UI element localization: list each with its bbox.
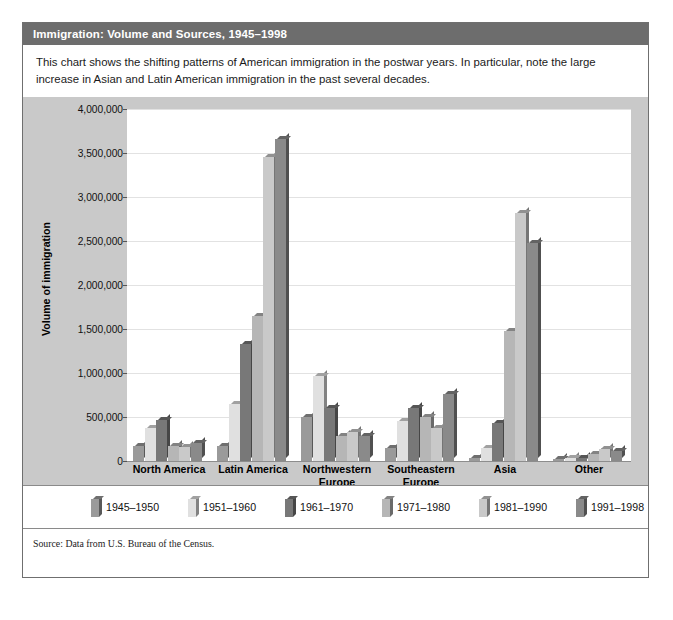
legend-item[interactable]: 1951–1960 (188, 496, 256, 517)
bar (492, 423, 503, 461)
x-axis-category-label: Asia (463, 463, 547, 476)
bar (229, 404, 240, 461)
legend-item[interactable]: 1971–1980 (382, 496, 450, 517)
bar-face (443, 394, 454, 461)
legend-item[interactable]: 1981–1990 (479, 496, 547, 517)
y-axis-tick-label: 1,000,000 (78, 368, 123, 379)
x-axis-category-label: Other (547, 463, 631, 476)
bar-face (385, 448, 396, 461)
legend-swatch-top (287, 496, 298, 499)
bar (252, 316, 263, 461)
bar (359, 436, 370, 461)
bar (324, 408, 335, 461)
bar-face (217, 446, 228, 461)
bar-face (263, 157, 274, 461)
bar-face (481, 448, 492, 461)
bar (179, 447, 190, 461)
bar-face (336, 436, 347, 462)
bar (504, 331, 515, 461)
bar-group (133, 109, 205, 461)
bar (420, 417, 431, 461)
y-axis-tick-label: 2,000,000 (78, 280, 123, 291)
bar-top-face (326, 405, 340, 408)
y-axis-labels: 4,000,0003,500,0003,000,0002,500,0002,00… (53, 109, 123, 461)
y-axis-tick-label: 2,500,000 (78, 236, 123, 247)
bar (336, 436, 347, 462)
bar (133, 446, 144, 461)
y-axis-tick-label: 3,500,000 (78, 148, 123, 159)
bar-face (431, 428, 442, 461)
legend-label: 1945–1950 (106, 501, 159, 513)
bar-top-face (315, 373, 329, 376)
bar (527, 243, 538, 461)
bar-face (565, 458, 576, 461)
bar (301, 417, 312, 461)
legend-swatch-face (188, 499, 196, 517)
legend-swatch (576, 496, 584, 517)
x-axis-category-label: North America (127, 463, 211, 476)
bar-top-face (349, 429, 363, 432)
legend-swatch-top (481, 496, 492, 499)
bar-face (168, 446, 179, 461)
bar (515, 213, 526, 461)
bar (599, 449, 610, 461)
bar-side-face (622, 445, 625, 458)
bar-top-face (601, 446, 615, 449)
legend-swatch-side (196, 496, 199, 517)
bar (168, 446, 179, 461)
y-axis-title: Volume of immigration (40, 179, 52, 379)
legend-swatch-side (99, 496, 102, 517)
legend-label: 1961–1970 (300, 501, 353, 513)
bar-face (156, 420, 167, 461)
source-note: Source: Data from U.S. Bureau of the Cen… (23, 528, 648, 557)
bar-face (359, 436, 370, 461)
bar-face (313, 376, 324, 461)
legend-item[interactable]: 1961–1970 (285, 496, 353, 517)
bar (217, 446, 228, 461)
bar-top-face (158, 417, 172, 420)
bar-face (408, 408, 419, 461)
bar-side-face (454, 388, 457, 458)
bar-top-face (517, 210, 531, 213)
legend-item[interactable]: 1991–1998 (576, 496, 644, 517)
y-axis-tick-label: 500,000 (86, 412, 123, 423)
legend-item[interactable]: 1945–1950 (91, 496, 159, 517)
figure-caption: This chart shows the shifting patterns o… (23, 45, 648, 97)
bar-face (553, 459, 564, 461)
bar-group (385, 109, 457, 461)
bar-face (145, 428, 156, 461)
bar (588, 454, 599, 461)
figure-container: Immigration: Volume and Sources, 1945–19… (22, 22, 649, 578)
bar-group (469, 109, 541, 461)
legend-swatch-side (584, 496, 587, 517)
bar-group (217, 109, 289, 461)
bar-face (191, 443, 202, 461)
bar (191, 443, 202, 461)
bar (431, 428, 442, 461)
bar-face (504, 331, 515, 461)
x-axis-category-label: Latin America (211, 463, 295, 476)
bar-face (347, 432, 358, 461)
bar-face (252, 316, 263, 461)
bar (385, 448, 396, 461)
legend-swatch (285, 496, 293, 517)
legend-swatch-top (578, 496, 589, 499)
legend-label: 1951–1960 (203, 501, 256, 513)
bar-face (515, 213, 526, 461)
bar-group (553, 109, 625, 461)
bar-face (229, 404, 240, 461)
bar (408, 408, 419, 461)
bar-face (576, 458, 587, 462)
bar (611, 451, 622, 461)
bar-face (397, 421, 408, 461)
legend-swatch-side (293, 496, 296, 517)
legend-swatch-top (384, 496, 395, 499)
bar (397, 421, 408, 461)
bar-face (301, 417, 312, 461)
chart-legend: 1945–19501951–19601961–19701971–19801981… (23, 485, 648, 528)
bar-face (599, 449, 610, 461)
legend-swatch-top (93, 496, 104, 499)
bar (240, 344, 251, 461)
bar (275, 139, 286, 461)
bar (565, 458, 576, 461)
